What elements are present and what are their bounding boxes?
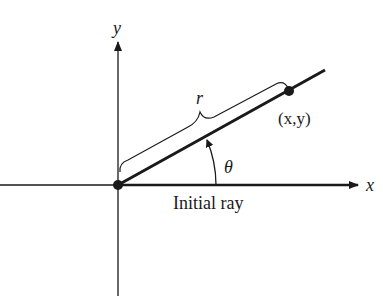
- polar-diagram: y x r (x,y) θ Initial ray: [0, 0, 383, 299]
- radius-brace: [120, 83, 288, 172]
- radius-label: r: [196, 88, 204, 108]
- point-xy: [284, 86, 294, 96]
- initial-ray-label: Initial ray: [173, 193, 243, 213]
- origin-point: [113, 180, 123, 190]
- x-axis-label: x: [365, 175, 374, 195]
- y-axis-label: y: [111, 18, 121, 38]
- angle-label: θ: [224, 157, 233, 177]
- point-label: (x,y): [278, 109, 311, 128]
- angle-arc: [207, 140, 216, 185]
